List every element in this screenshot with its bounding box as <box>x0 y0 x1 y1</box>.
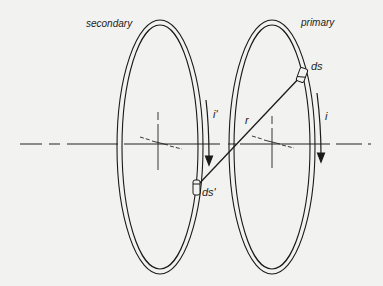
ds-prime-element-secondary <box>193 180 200 195</box>
primary-label: primary <box>300 17 335 28</box>
mutual-inductance-diagram: secondary primary ds ds' r i' i <box>0 0 383 286</box>
ds-prime-label: ds' <box>202 186 217 198</box>
secondary-label: secondary <box>86 18 133 29</box>
ds-label: ds <box>311 60 323 72</box>
